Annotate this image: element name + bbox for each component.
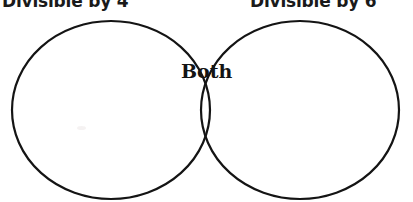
venn-diagram-figure: Divisible by 4 Divisible by 6 Both [0, 0, 413, 202]
diagram-background [0, 0, 413, 202]
left-set-label: Divisible by 4 [2, 0, 128, 10]
intersection-label: Both [181, 60, 232, 82]
scan-artifact [77, 126, 86, 130]
venn-diagram-shapes [0, 0, 413, 202]
right-set-label: Divisible by 6 [250, 0, 376, 10]
